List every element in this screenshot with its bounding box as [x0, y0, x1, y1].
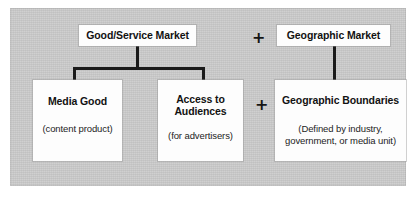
- node-access-to-audiences-title: Access to Audiences: [174, 93, 226, 118]
- node-geographic-boundaries-subtitle-line1: (Defined by industry,: [298, 123, 382, 134]
- node-geographic-boundaries-title: Geographic Boundaries: [282, 94, 399, 106]
- node-geographic-market-title: Geographic Market: [287, 29, 380, 41]
- node-good-service-market: Good/Service Market: [79, 25, 196, 46]
- node-access-to-audiences-title-line1: Access to: [176, 93, 225, 105]
- node-access-to-audiences-title-line2: Audiences: [174, 105, 226, 117]
- node-geographic-boundaries-subtitle-line2: government, or media unit): [285, 135, 396, 146]
- node-geographic-market: Geographic Market: [277, 25, 390, 46]
- plus-operator-bottom: +: [255, 97, 268, 113]
- diagram-screenshot: + + Good/Service Market Geographic Marke…: [0, 0, 417, 200]
- connector-bracket-horizontal: [73, 67, 205, 70]
- node-media-good-subtitle: (content product): [42, 123, 112, 135]
- plus-operator-top: +: [252, 30, 265, 46]
- node-geographic-boundaries-subtitle: (Defined by industry, government, or med…: [285, 123, 396, 147]
- node-media-good-title: Media Good: [48, 95, 107, 107]
- node-geographic-boundaries: Geographic Boundaries (Defined by indust…: [275, 80, 406, 161]
- diagram-panel: + + Good/Service Market Geographic Marke…: [10, 8, 406, 186]
- node-media-good: Media Good (content product): [33, 80, 122, 161]
- connector-bracket-right-drop: [202, 67, 205, 81]
- node-good-service-market-title: Good/Service Market: [86, 29, 189, 41]
- node-access-to-audiences: Access to Audiences (for advertisers): [158, 80, 243, 161]
- connector-bracket-left-drop: [73, 67, 76, 81]
- connector-good-service-market-stem: [136, 46, 139, 69]
- connector-geographic-market-stem: [333, 46, 336, 81]
- node-access-to-audiences-subtitle: (for advertisers): [168, 130, 233, 142]
